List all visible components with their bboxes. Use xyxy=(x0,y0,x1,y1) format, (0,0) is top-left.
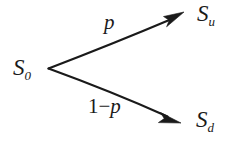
edge-down-probability-prefix: 1 xyxy=(88,94,99,118)
node-s0-subscript: 0 xyxy=(25,68,32,83)
node-sd-base: S xyxy=(196,107,208,132)
minus-sign-icon: − xyxy=(99,94,111,118)
edge-down-probability-term: p xyxy=(110,94,121,118)
edge-label-up-probability: p xyxy=(104,12,115,33)
up-branch-group xyxy=(49,12,185,69)
up-branch-arrowhead-icon xyxy=(164,12,185,27)
node-label-s0: S0 xyxy=(13,56,31,79)
edge-up-probability-text: p xyxy=(104,10,115,34)
edge-label-down-probability: 1−p xyxy=(88,96,121,117)
node-su-subscript: u xyxy=(209,14,216,29)
binomial-tree-figure: S0 Su Sd p 1−p xyxy=(0,0,235,146)
node-su-base: S xyxy=(197,1,209,26)
down-branch-arrowhead-icon xyxy=(158,113,181,124)
node-label-sd: Sd xyxy=(196,108,214,131)
node-sd-subscript: d xyxy=(208,120,215,135)
node-label-su: Su xyxy=(197,2,215,25)
node-s0-base: S xyxy=(13,55,25,80)
